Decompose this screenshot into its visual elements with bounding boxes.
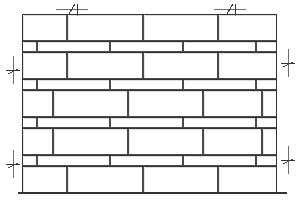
texture-speckle	[261, 169, 262, 170]
wall-elevation-drawing	[0, 0, 303, 208]
brick-course-2	[23, 53, 277, 79]
brick	[144, 167, 218, 193]
brick	[129, 91, 203, 117]
texture-speckle	[146, 100, 147, 101]
brick	[54, 91, 128, 117]
texture-speckle	[47, 175, 48, 176]
brick	[54, 129, 128, 155]
texture-speckle	[257, 85, 258, 86]
brick	[257, 42, 277, 52]
brick	[38, 118, 110, 128]
brick-course-0	[23, 15, 277, 41]
brick	[38, 42, 110, 52]
brick-course-7	[23, 156, 277, 166]
brick	[111, 118, 183, 128]
brick-course-5	[23, 118, 277, 128]
brick	[184, 118, 256, 128]
brick	[219, 53, 277, 79]
texture-speckle	[200, 147, 201, 148]
brick	[184, 80, 256, 90]
texture-speckle	[94, 161, 95, 162]
brick	[23, 118, 37, 128]
brick	[38, 80, 110, 90]
brick-course-6	[23, 129, 277, 155]
brick	[219, 15, 277, 41]
brick	[184, 42, 256, 52]
brick	[204, 91, 262, 117]
brick-course-3	[23, 80, 277, 90]
brick	[23, 80, 37, 90]
brick	[68, 15, 143, 41]
brick	[23, 42, 37, 52]
brick	[68, 53, 143, 79]
brick	[68, 167, 143, 193]
brick	[23, 15, 67, 41]
brick-course-8	[23, 167, 277, 193]
brick	[219, 167, 277, 193]
texture-speckle	[122, 139, 123, 140]
brick	[263, 91, 277, 117]
brick	[111, 156, 183, 166]
brick	[23, 53, 67, 79]
texture-speckle	[81, 84, 82, 85]
brick	[38, 156, 110, 166]
texture-speckle	[234, 117, 235, 118]
texture-speckle	[91, 25, 92, 26]
brick	[129, 129, 203, 155]
brick	[111, 80, 183, 90]
texture-speckle	[169, 29, 170, 30]
texture-speckle	[169, 157, 170, 158]
brick	[111, 42, 183, 52]
texture-speckle	[209, 175, 210, 176]
texture-speckle	[137, 179, 138, 180]
texture-speckle	[59, 57, 60, 58]
brick	[184, 156, 256, 166]
brick	[263, 129, 277, 155]
brick	[144, 53, 218, 79]
texture-speckle	[230, 63, 231, 64]
brick-course-4	[23, 91, 277, 117]
texture-speckle	[195, 45, 196, 46]
brick-wall-svg	[0, 0, 303, 208]
texture-speckle	[75, 121, 76, 122]
brick	[23, 129, 53, 155]
brick-course-1	[23, 42, 277, 52]
brick	[144, 15, 218, 41]
brick	[257, 118, 277, 128]
brick	[204, 129, 262, 155]
brick	[257, 80, 277, 90]
brick	[23, 167, 67, 193]
texture-speckle	[271, 107, 272, 108]
brick	[257, 156, 277, 166]
texture-speckle	[189, 95, 190, 96]
brick	[23, 156, 37, 166]
brick	[23, 91, 53, 117]
texture-speckle	[245, 23, 246, 24]
